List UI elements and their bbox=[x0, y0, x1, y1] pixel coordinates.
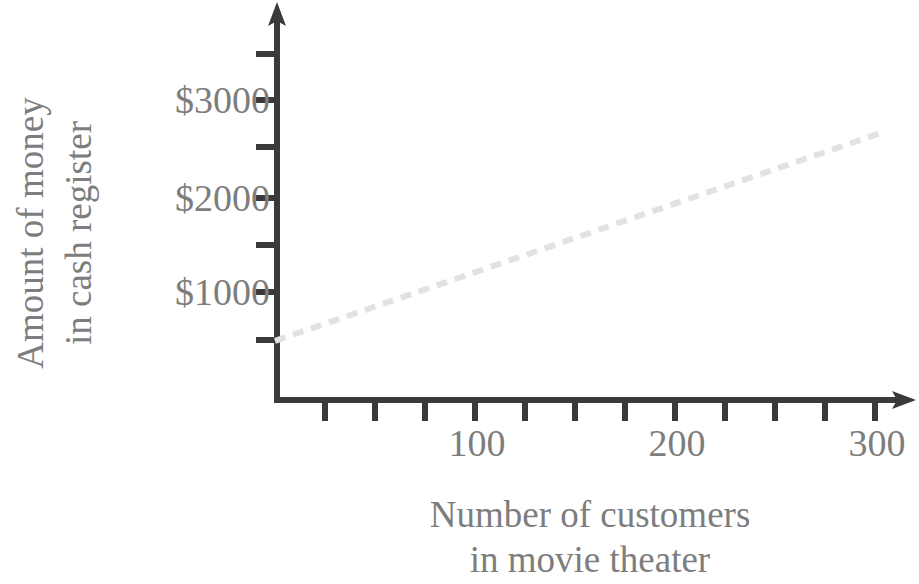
x-tick-label-200: 200 bbox=[612, 424, 742, 462]
y-axis-title-line-2: in cash register bbox=[55, 23, 103, 443]
y-tick-label-1000: $1000 bbox=[110, 273, 270, 311]
x-axis bbox=[274, 391, 916, 409]
y-tick-label-3000: $3000 bbox=[110, 81, 270, 119]
line-chart: $3000 $2000 $1000 100 200 300 Number of … bbox=[0, 0, 919, 584]
y-tick-label-2000: $2000 bbox=[110, 179, 270, 217]
x-axis-title-line-2: in movie theater bbox=[270, 537, 910, 582]
x-tick-label-300: 300 bbox=[812, 424, 919, 462]
y-axis-title: Amount of money in cash register bbox=[7, 23, 103, 443]
x-tick-label-100: 100 bbox=[412, 424, 542, 462]
y-axis-title-line-1: Amount of money bbox=[7, 23, 55, 443]
series-line-cash-register bbox=[275, 132, 883, 341]
x-axis-title-line-1: Number of customers bbox=[270, 492, 910, 537]
x-axis-title: Number of customers in movie theater bbox=[270, 492, 910, 582]
